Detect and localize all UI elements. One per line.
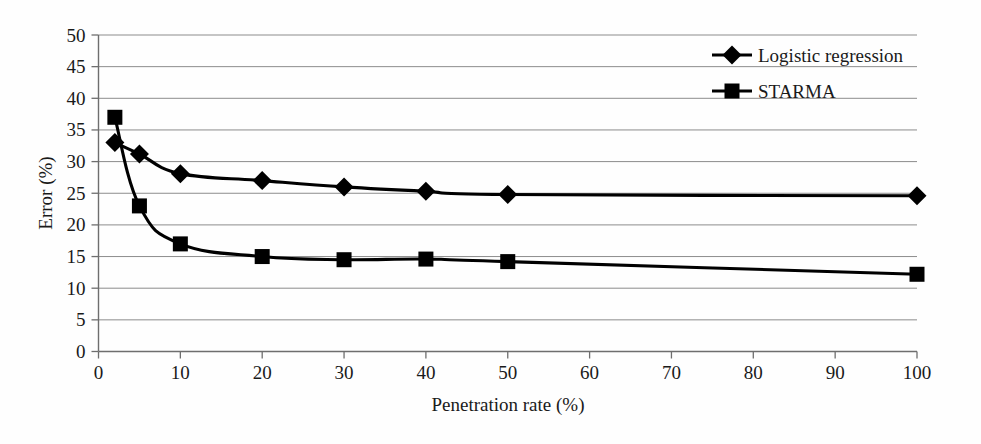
legend-label-1: Logistic regression bbox=[758, 45, 904, 66]
chart-figure: 0102030405060708090100 05101520253035404… bbox=[0, 0, 981, 444]
y-tick-label-45: 45 bbox=[67, 56, 86, 77]
y-tick-label-10: 10 bbox=[67, 278, 86, 299]
data-point-2-8 bbox=[910, 267, 925, 282]
data-point-2-6 bbox=[418, 252, 433, 267]
x-tick-label-70: 70 bbox=[662, 362, 681, 383]
data-point-2-1 bbox=[107, 110, 122, 125]
data-point-2-3 bbox=[173, 236, 188, 251]
x-tick-label-0: 0 bbox=[94, 362, 104, 383]
y-tick-label-25: 25 bbox=[67, 183, 86, 204]
legend-marker-square bbox=[725, 84, 740, 99]
x-axis-title: Penetration rate (%) bbox=[432, 394, 585, 416]
x-tick-label-20: 20 bbox=[253, 362, 272, 383]
x-tick-label-90: 90 bbox=[826, 362, 845, 383]
y-axis-title: Error (%) bbox=[35, 156, 57, 229]
data-point-2-7 bbox=[500, 254, 515, 269]
x-tick-label-40: 40 bbox=[416, 362, 435, 383]
line-chart: 0102030405060708090100 05101520253035404… bbox=[0, 0, 981, 444]
x-tick-label-60: 60 bbox=[580, 362, 599, 383]
y-tick-label-30: 30 bbox=[67, 151, 86, 172]
y-tick-label-50: 50 bbox=[67, 25, 86, 46]
y-tick-label-40: 40 bbox=[67, 88, 86, 109]
y-tick-label-5: 5 bbox=[76, 309, 86, 330]
x-tick-label-30: 30 bbox=[335, 362, 354, 383]
x-tick-label-100: 100 bbox=[903, 362, 932, 383]
x-tick-label-50: 50 bbox=[498, 362, 517, 383]
data-point-2-2 bbox=[132, 198, 147, 213]
data-point-2-5 bbox=[337, 252, 352, 267]
x-tick-label-10: 10 bbox=[171, 362, 190, 383]
y-tick-label-35: 35 bbox=[67, 119, 86, 140]
data-point-2-4 bbox=[255, 249, 270, 264]
y-tick-label-15: 15 bbox=[67, 246, 86, 267]
x-tick-label-80: 80 bbox=[744, 362, 763, 383]
legend-label-2: STARMA bbox=[758, 81, 836, 102]
y-tick-label-20: 20 bbox=[67, 214, 86, 235]
y-tick-label-0: 0 bbox=[76, 341, 86, 362]
